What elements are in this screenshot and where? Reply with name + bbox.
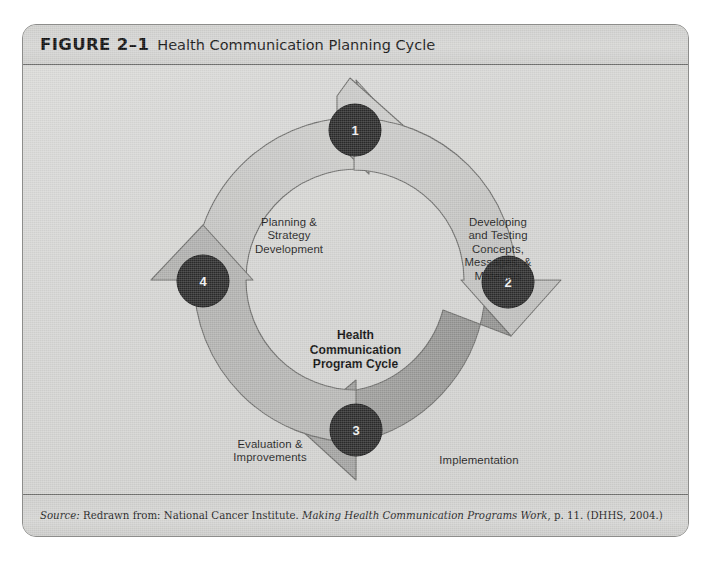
figure-source-band: Source: Redrawn from: National Cancer In… — [23, 494, 688, 536]
source-text-part2: , p. 11. (DHHS, 2004.) — [548, 510, 663, 521]
step-badge-1-number: 1 — [351, 123, 358, 138]
source-title: Making Health Communication Programs Wor… — [302, 510, 548, 521]
source-text-part1: Redrawn from: National Cancer Institute. — [80, 510, 302, 521]
cycle-diagram: 1 2 3 4 Planning & Strategy Development … — [23, 66, 688, 493]
step-label-implementation: Implementation — [413, 454, 545, 467]
step-label-planning-strategy-development: Planning & Strategy Development — [223, 216, 355, 256]
step-label-evaluation-improvements: Evaluation & Improvements — [204, 438, 336, 465]
figure-number: FIGURE 2–1 — [40, 35, 149, 54]
figure-source: Source: Redrawn from: National Cancer In… — [40, 510, 663, 521]
step-badge-1: 1 — [329, 104, 381, 156]
step-badge-3-number: 3 — [352, 423, 359, 438]
figure-header: FIGURE 2–1 Health Communication Planning… — [23, 25, 688, 65]
step-badge-4-number: 4 — [199, 274, 207, 289]
step-badge-3: 3 — [330, 404, 382, 456]
figure-title: Health Communication Planning Cycle — [157, 37, 435, 53]
step-label-developing-testing-concepts: Developing and Testing Concepts, Message… — [432, 216, 564, 283]
step-badge-4: 4 — [177, 255, 229, 307]
cycle-center-label: Health Communication Program Cycle — [266, 328, 446, 372]
source-label: Source: — [40, 510, 80, 521]
figure-frame: FIGURE 2–1 Health Communication Planning… — [22, 24, 689, 537]
